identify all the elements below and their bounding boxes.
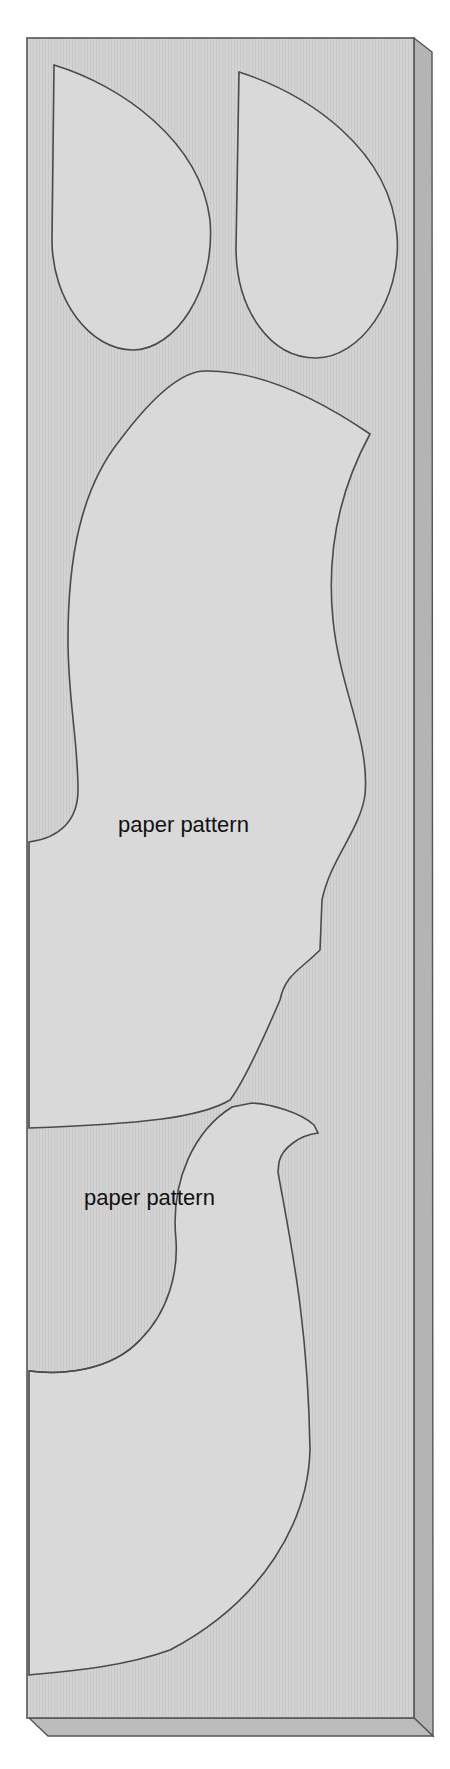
board-right-side	[414, 38, 433, 1736]
paper-pattern-label-2: paper pattern	[84, 1185, 215, 1211]
board-diagram	[0, 0, 450, 1769]
paper-pattern-label-1: paper pattern	[118, 812, 249, 838]
board-bottom-side	[29, 1718, 433, 1736]
